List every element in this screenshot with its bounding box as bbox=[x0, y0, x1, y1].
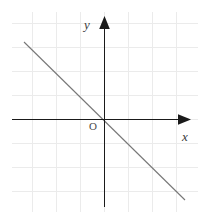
graph-canvas bbox=[0, 0, 205, 223]
y-axis-arrowhead bbox=[99, 16, 110, 29]
x-axis-label: x bbox=[182, 130, 188, 143]
x-axis bbox=[12, 114, 191, 125]
origin-label: O bbox=[89, 121, 97, 132]
x-axis-arrowhead bbox=[178, 114, 191, 125]
y-axis-label: y bbox=[84, 18, 90, 31]
coordinate-plane-figure: y x O bbox=[0, 0, 205, 223]
y-axis bbox=[99, 16, 110, 207]
